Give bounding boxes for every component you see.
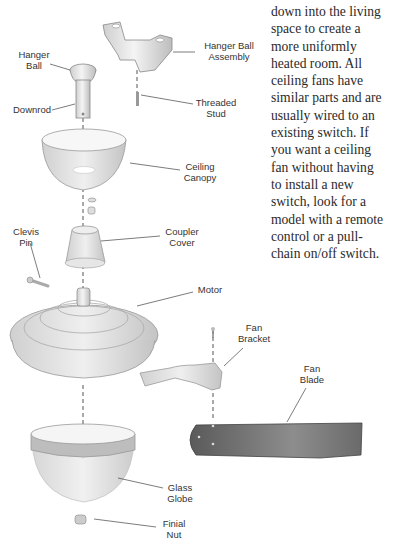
body-line: you want a ceiling: [271, 141, 399, 158]
body-line: ceiling fans have: [271, 72, 399, 89]
label-ceiling-canopy: Ceiling Canopy: [177, 161, 223, 183]
hanger-ball-assembly-part: [103, 22, 172, 72]
body-line: space to create a: [271, 20, 399, 37]
glass-globe-part: [31, 424, 135, 502]
label-fan-blade: Fan Blade: [292, 363, 332, 385]
body-line: more uniformly: [271, 38, 399, 55]
label-finial-nut: Finial Nut: [156, 518, 192, 540]
label-threaded-stud: Threaded Stud: [190, 97, 242, 119]
article-body-text: down into the living space to create a m…: [271, 3, 399, 262]
body-line: similar parts and are: [271, 89, 399, 106]
body-line: heated room. All: [271, 55, 399, 72]
body-line: model with a remote: [271, 211, 399, 228]
fan-blade-part: [190, 423, 362, 458]
threaded-stud-part: [136, 92, 139, 106]
finial-nut-part: [75, 515, 86, 524]
label-fan-bracket: Fan Bracket: [232, 322, 276, 344]
body-line: chain on/off switch.: [271, 245, 399, 262]
body-line: control or a pull-: [271, 228, 399, 245]
body-line: fan without having: [271, 159, 399, 176]
label-clevis-pin: Clevis Pin: [6, 226, 46, 248]
label-coupler-cover: Coupler Cover: [158, 226, 206, 248]
label-glass-globe: Glass Globe: [160, 482, 200, 504]
body-line: to install a new: [271, 176, 399, 193]
label-hanger-ball: Hanger Ball: [14, 49, 54, 71]
body-line: existing switch. If: [271, 124, 399, 141]
motor-part: [10, 288, 158, 378]
coupler-cover-part: [65, 226, 105, 268]
downrod-part: [70, 64, 96, 118]
body-line: down into the living: [271, 3, 399, 20]
ceiling-canopy-part: [42, 129, 126, 190]
label-hanger-ball-assembly: Hanger Ball Assembly: [197, 40, 261, 62]
label-motor: Motor: [190, 284, 230, 295]
body-line: usually wired to an: [271, 107, 399, 124]
body-line: switch, look for a: [271, 193, 399, 210]
label-downrod: Downrod: [10, 104, 54, 115]
clevis-pin-part: [27, 277, 48, 286]
